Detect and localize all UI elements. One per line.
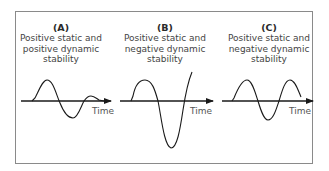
panel-c-plot: Time [222, 80, 313, 120]
panel-b-divergent-curve [131, 72, 192, 148]
oscillation-plots: Time Time Time [0, 0, 329, 171]
panel-b-time-label: Time [189, 106, 212, 116]
panel-a-time-label: Time [91, 106, 114, 116]
panel-c-time-label: Time [288, 106, 311, 116]
panel-b-plot: Time [120, 72, 213, 148]
panel-a-plot: Time [21, 80, 114, 118]
